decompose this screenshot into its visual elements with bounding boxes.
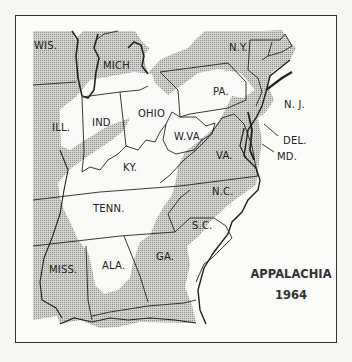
label-ny: N.Y.	[229, 42, 248, 53]
label-mich: MICH	[103, 60, 130, 71]
label-ill: ILL.	[52, 122, 70, 133]
label-del: DEL.	[283, 135, 307, 146]
label-miss: MISS.	[49, 264, 77, 275]
label-ala: ALA.	[102, 260, 125, 271]
label-nj: N. J.	[284, 99, 305, 110]
label-tenn: TENN.	[93, 203, 125, 214]
label-wis: WIS.	[34, 40, 57, 51]
label-ky: KY.	[123, 162, 137, 173]
label-va: VA.	[216, 150, 233, 161]
label-ohio: OHIO	[138, 108, 165, 119]
label-nc: N.C.	[212, 186, 234, 197]
label-md: MD.	[277, 151, 297, 162]
map-year: 1964	[236, 287, 346, 304]
map-title-block: APPALACHIA 1964	[236, 266, 346, 304]
label-pa: PA.	[213, 86, 229, 97]
label-ga: GA.	[156, 251, 174, 262]
label-wva: W.VA.	[174, 131, 203, 142]
label-sc: S.C.	[192, 220, 213, 231]
appalachia-map	[0, 0, 352, 362]
map-title: APPALACHIA	[236, 266, 346, 283]
label-ind: IND	[92, 117, 111, 128]
